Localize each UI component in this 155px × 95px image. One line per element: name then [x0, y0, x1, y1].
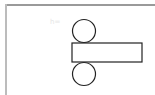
cylinder-net-diagram — [0, 0, 155, 95]
top-circle — [73, 20, 96, 43]
lateral-rectangle — [72, 43, 142, 62]
bottom-circle — [73, 63, 96, 86]
